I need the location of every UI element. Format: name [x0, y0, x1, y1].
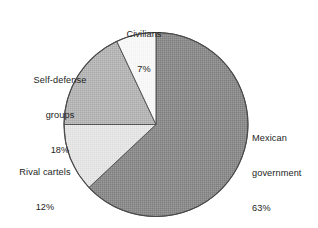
pie-label-civilians: Civilians 7%: [104, 6, 184, 99]
pie-label-rival-cartels: Rival cartels 12%: [2, 144, 88, 228]
pie-label-self-defense-name-1: Self-defense: [14, 75, 106, 87]
pie-chart: Civilians 7% Self-defense groups 18% Riv…: [0, 0, 318, 228]
pie-label-mexican-value: 63%: [252, 203, 318, 215]
pie-label-self-defense-name-2: groups: [14, 110, 106, 122]
pie-label-rival-cartels-value: 12%: [2, 202, 88, 214]
pie-label-civilians-name: Civilians: [104, 29, 184, 41]
pie-label-mexican-government: Mexican government 63%: [252, 110, 318, 228]
pie-label-rival-cartels-name: Rival cartels: [2, 167, 88, 179]
pie-label-mexican-name-1: Mexican: [252, 133, 318, 145]
pie-label-mexican-name-2: government: [252, 168, 318, 180]
pie-label-civilians-value: 7%: [104, 64, 184, 76]
